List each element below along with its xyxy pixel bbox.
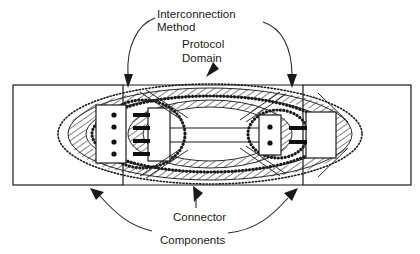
label-components: Components <box>160 234 225 246</box>
right-pin-1 <box>289 126 307 130</box>
leader-protocol-domain <box>206 62 219 77</box>
right-dot-1 <box>267 124 272 129</box>
leader-components-right <box>228 188 298 233</box>
right-connector-body <box>259 115 281 155</box>
left-component-inner-box <box>96 105 126 163</box>
diagram-canvas: Interconnection Method Protocol Domain C… <box>0 0 420 254</box>
leader-interconnection-right <box>263 22 297 88</box>
label-connector: Connector <box>173 211 226 223</box>
label-protocol: Protocol <box>182 38 224 50</box>
right-component-inner-box <box>306 112 336 158</box>
arrowhead-connector <box>193 186 203 202</box>
diagram-svg: Interconnection Method Protocol Domain C… <box>0 0 420 254</box>
left-pin-3 <box>133 139 150 143</box>
right-connector-group <box>259 115 281 155</box>
arrowhead-interconnection-left <box>124 74 133 88</box>
right-pin-2 <box>289 140 307 144</box>
left-dot-2 <box>111 124 116 129</box>
label-method: Method <box>157 21 195 33</box>
leader-interconnection-left <box>124 18 155 88</box>
left-pin-1 <box>133 113 150 117</box>
arrowhead-components-right <box>284 188 298 201</box>
arrowhead-protocol-domain <box>206 62 219 77</box>
left-pin-2 <box>133 126 150 130</box>
left-dot-1 <box>111 112 116 117</box>
leader-components-left <box>90 188 152 231</box>
left-dot-3 <box>111 139 116 144</box>
left-dot-4 <box>111 151 116 156</box>
left-component-pins-group <box>96 105 126 163</box>
left-pin-4 <box>133 152 150 156</box>
left-connector-body <box>148 108 170 161</box>
leader-connector <box>193 186 203 208</box>
label-interconnection: Interconnection <box>157 8 236 20</box>
right-component-pins-group <box>289 112 336 158</box>
label-domain: Domain <box>182 52 222 64</box>
right-dot-2 <box>267 140 272 145</box>
arrowhead-interconnection-right <box>287 74 297 88</box>
